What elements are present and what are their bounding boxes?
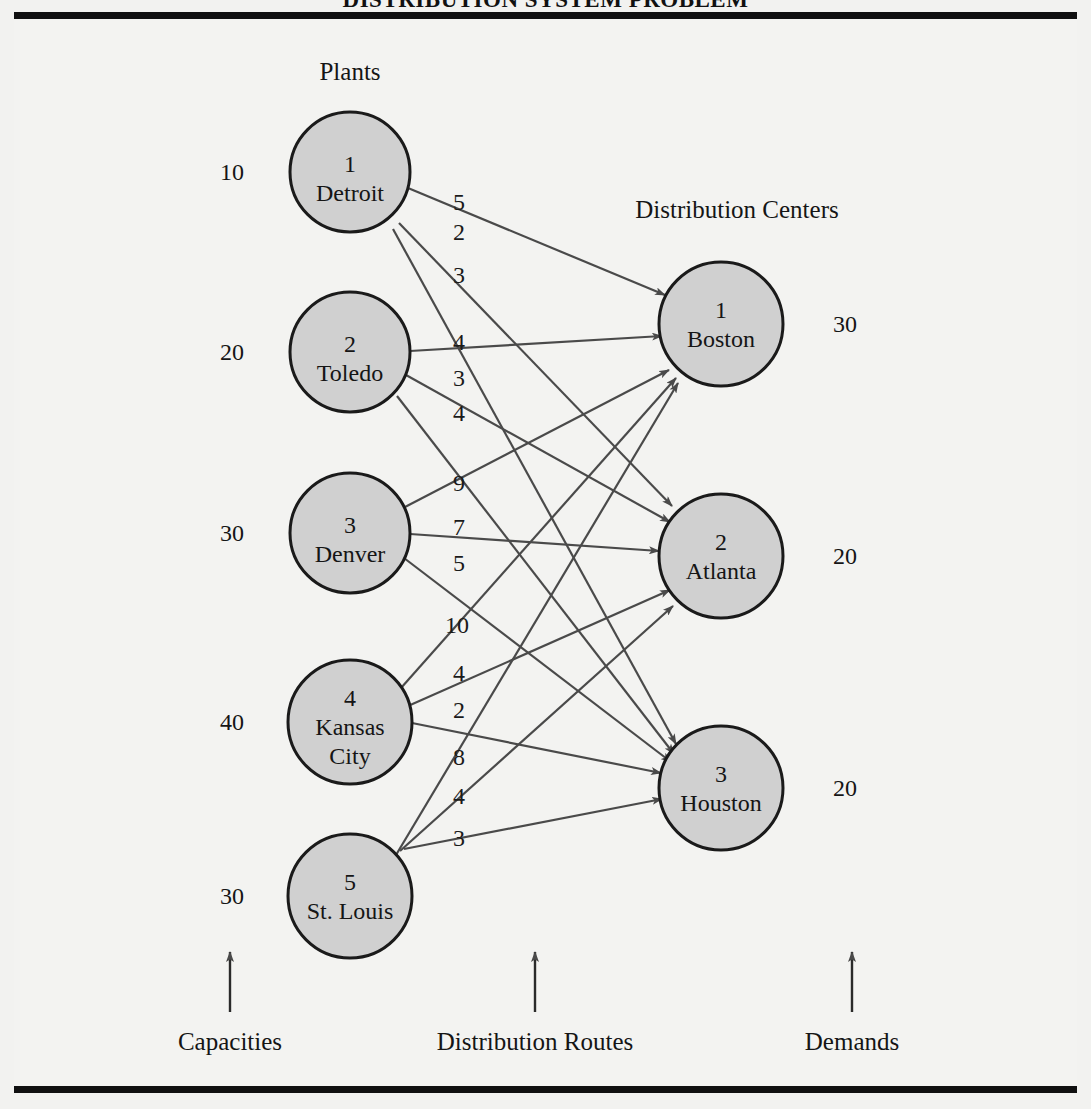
plant-name-line2: City <box>329 743 370 769</box>
demands-group: 30 20 20 <box>833 311 857 801</box>
center-index: 2 <box>715 529 727 555</box>
edge-cost-label: 4 <box>453 400 465 426</box>
routes-label: Distribution Routes <box>437 1028 634 1055</box>
capacity-value: 40 <box>220 709 244 735</box>
center-circle[interactable] <box>659 494 783 618</box>
center-name: Boston <box>687 326 755 352</box>
edge-stlouis-houston <box>404 799 662 849</box>
edge-detroit-houston <box>393 229 676 744</box>
edge-cost-label: 3 <box>453 365 465 391</box>
diagram-page: DISTRIBUTION SYSTEM PROBLEM Plants Distr… <box>0 0 1091 1109</box>
edge-cost-label: 3 <box>453 825 465 851</box>
edge-toledo-atlanta <box>406 375 670 522</box>
center-circle[interactable] <box>659 726 783 850</box>
footer-group: Capacities Distribution Routes Demands <box>178 952 899 1055</box>
plant-name: Kansas <box>315 714 384 740</box>
edge-detroit-boston <box>408 188 665 295</box>
center-index: 3 <box>715 761 727 787</box>
center-name: Houston <box>680 790 761 816</box>
center-node-atlanta[interactable]: 2 Atlanta <box>659 494 783 618</box>
demand-value: 20 <box>833 543 857 569</box>
plant-index: 2 <box>344 331 356 357</box>
demands-label: Demands <box>805 1028 899 1055</box>
network-diagram: Plants Distribution Centers <box>0 0 1091 1109</box>
edge-cost-label: 7 <box>453 514 465 540</box>
plant-index: 3 <box>344 512 356 538</box>
distribution-centers-header: Distribution Centers <box>635 196 838 223</box>
edge-denver-boston <box>405 370 669 507</box>
capacities-group: 10 20 30 40 30 <box>220 159 244 909</box>
plant-node-toledo[interactable]: 2 Toledo <box>290 292 410 412</box>
plant-circle[interactable] <box>288 834 412 958</box>
edge-cost-label: 5 <box>453 189 465 215</box>
demand-value: 30 <box>833 311 857 337</box>
edge-toledo-boston <box>410 336 662 351</box>
capacity-value: 30 <box>220 520 244 546</box>
plant-node-denver[interactable]: 3 Denver <box>290 473 410 593</box>
edge-cost-label: 4 <box>453 329 465 355</box>
capacities-label: Capacities <box>178 1028 282 1055</box>
center-node-boston[interactable]: 1 Boston <box>659 262 783 386</box>
edge-cost-label: 4 <box>453 660 465 686</box>
plant-name: Denver <box>315 541 386 567</box>
edge-kansascity-atlanta <box>408 590 670 706</box>
plants-header: Plants <box>319 58 380 85</box>
edge-cost-label: 8 <box>453 744 465 770</box>
center-circle[interactable] <box>659 262 783 386</box>
edge-labels-group: 5 2 3 4 3 4 9 7 5 10 4 2 8 4 3 <box>445 189 469 851</box>
edges-group <box>393 188 678 855</box>
plant-index: 5 <box>344 869 356 895</box>
edge-cost-label: 2 <box>453 697 465 723</box>
plant-index: 1 <box>344 151 356 177</box>
center-node-houston[interactable]: 3 Houston <box>659 726 783 850</box>
edge-cost-label: 9 <box>453 470 465 496</box>
plant-node-kansas-city[interactable]: 4 Kansas City <box>288 660 412 784</box>
edge-toledo-houston <box>397 396 674 754</box>
edge-cost-label: 2 <box>453 219 465 245</box>
edge-stlouis-boston <box>396 383 678 855</box>
plant-name: Toledo <box>317 360 383 386</box>
edge-cost-label: 3 <box>453 262 465 288</box>
plant-name: St. Louis <box>307 898 394 924</box>
capacity-value: 30 <box>220 883 244 909</box>
plant-node-st-louis[interactable]: 5 St. Louis <box>288 834 412 958</box>
capacity-value: 10 <box>220 159 244 185</box>
plant-node-detroit[interactable]: 1 Detroit <box>290 112 410 232</box>
edge-cost-label: 5 <box>453 550 465 576</box>
center-index: 1 <box>715 297 727 323</box>
edge-cost-label: 4 <box>453 783 465 809</box>
capacity-value: 20 <box>220 339 244 365</box>
plant-name: Detroit <box>316 180 384 206</box>
edge-cost-label: 10 <box>445 612 469 638</box>
demand-value: 20 <box>833 775 857 801</box>
plant-index: 4 <box>344 685 356 711</box>
center-name: Atlanta <box>686 558 757 584</box>
